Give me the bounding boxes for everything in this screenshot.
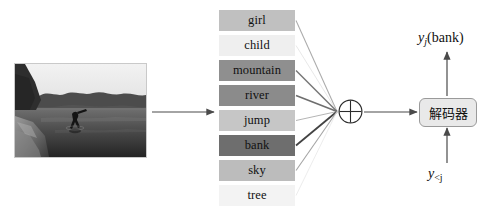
attention-line-jump: [296, 112, 337, 121]
word-item-jump[interactable]: jump: [219, 110, 295, 131]
word-item-bank[interactable]: bank: [219, 135, 295, 156]
word-label: jump: [244, 113, 270, 128]
word-item-tree[interactable]: tree: [219, 185, 295, 206]
attention-line-mountain: [296, 71, 337, 112]
word-item-mountain[interactable]: mountain: [219, 60, 295, 81]
word-item-girl[interactable]: girl: [219, 10, 295, 31]
prev-subscript: <j: [434, 172, 442, 183]
attention-line-bank: [296, 112, 337, 146]
attention-line-girl: [296, 21, 337, 112]
word-label: girl: [248, 13, 266, 28]
output-word: (bank): [427, 30, 464, 45]
circle-plus-icon: [338, 99, 363, 124]
previous-tokens-label: y<j: [428, 166, 443, 183]
word-label: sky: [248, 163, 266, 178]
word-label: tree: [247, 188, 266, 203]
word-item-sky[interactable]: sky: [219, 160, 295, 181]
diagram-canvas: girl child mountain river jump bank sky …: [0, 0, 496, 223]
word-item-child[interactable]: child: [219, 35, 295, 56]
decoder-node[interactable]: 解码器: [419, 98, 477, 127]
word-label: river: [245, 88, 269, 103]
word-label: bank: [245, 138, 270, 153]
attention-line-sky: [296, 112, 337, 171]
attention-weight-lines: [296, 21, 337, 196]
word-item-river[interactable]: river: [219, 85, 295, 106]
source-image-graphic: [15, 64, 146, 157]
output-token-label: yj(bank): [418, 30, 464, 47]
circle-plus-glyph: [338, 99, 363, 124]
attention-line-tree: [296, 112, 337, 196]
source-image: [14, 63, 147, 158]
decoder-label: 解码器: [429, 103, 468, 122]
attention-word-list: girl child mountain river jump bank sky …: [219, 10, 295, 206]
attention-line-child: [296, 46, 337, 112]
attention-line-river: [296, 96, 337, 112]
word-label: child: [244, 38, 270, 53]
word-label: mountain: [233, 63, 281, 78]
